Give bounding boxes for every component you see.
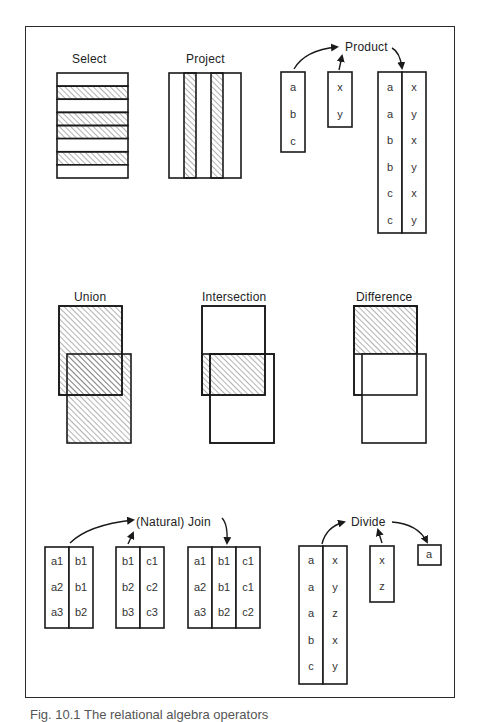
projected-column xyxy=(211,73,223,178)
join-right-cell: c1 xyxy=(142,555,162,567)
join-left-cell: a3 xyxy=(47,606,67,618)
project-diagram xyxy=(169,73,241,178)
selected-row xyxy=(57,152,128,165)
difference-result xyxy=(354,306,417,354)
product-result-cell: y xyxy=(404,161,424,173)
divide-arrow-divisor xyxy=(378,530,382,543)
intersection-overlap xyxy=(202,354,265,395)
join-arrow-left xyxy=(70,520,133,543)
project-label: Project xyxy=(186,52,225,66)
product-result-cell: c xyxy=(380,187,400,199)
join-arrow-right xyxy=(128,533,133,544)
join-right-cell: b2 xyxy=(118,581,138,593)
join-result-cell: b1 xyxy=(214,555,234,567)
product-result-cell: x xyxy=(404,81,424,93)
product-result-cell: x xyxy=(404,134,424,146)
join-left-cell: a1 xyxy=(47,555,67,567)
join-left-cell: b2 xyxy=(71,606,91,618)
row xyxy=(57,99,128,112)
selected-row xyxy=(57,112,128,125)
join-right-cell: b1 xyxy=(118,555,138,567)
dividend-cell: x xyxy=(325,554,345,566)
product-result-cell: c xyxy=(380,214,400,226)
join-result-cell: c2 xyxy=(238,606,258,618)
product-result-col1 xyxy=(378,72,402,233)
join-result-cell: a2 xyxy=(190,581,210,593)
join-right-cell: c2 xyxy=(142,581,162,593)
projected-column xyxy=(184,73,196,178)
dividend-cell: a xyxy=(301,554,321,566)
join-right-cell: b3 xyxy=(118,606,138,618)
dividend-cell: y xyxy=(325,581,345,593)
product-left-cell: b xyxy=(283,108,303,120)
product-result-cell: b xyxy=(380,134,400,146)
product-result-cell: a xyxy=(380,81,400,93)
divide-arrow-result xyxy=(392,522,427,542)
product-result-cell: x xyxy=(404,187,424,199)
product-result-cell: b xyxy=(380,161,400,173)
dividend-cell: z xyxy=(325,607,345,619)
selected-row xyxy=(57,126,128,139)
join-left-cell: b1 xyxy=(71,581,91,593)
product-result-cell: a xyxy=(380,108,400,120)
join-result-cell: a1 xyxy=(190,555,210,567)
intersection-label: Intersection xyxy=(202,290,266,304)
dividend-cell: a xyxy=(301,607,321,619)
divide-result-cell: a xyxy=(419,548,439,560)
divide-label: Divide xyxy=(351,515,386,529)
join-left-cell: b1 xyxy=(71,555,91,567)
divisor-cell: x xyxy=(372,554,392,566)
row xyxy=(57,139,128,152)
dividend-cell: a xyxy=(301,581,321,593)
join-result-cell: b2 xyxy=(214,606,234,618)
product-left-cell: c xyxy=(283,135,303,147)
divide-arrow-dividend xyxy=(322,522,344,544)
product-result-cell: y xyxy=(404,108,424,120)
dividend-cell: x xyxy=(325,634,345,646)
figure-caption: Fig. 10.1 The relational algebra operato… xyxy=(30,707,268,722)
join-result-cell: b1 xyxy=(214,581,234,593)
join-right-cell: c3 xyxy=(142,606,162,618)
product-arrow-right xyxy=(339,56,342,70)
product-right-cell: y xyxy=(330,108,350,120)
product-left-cell: a xyxy=(283,81,303,93)
product-label: Product xyxy=(345,40,388,54)
row xyxy=(57,165,128,178)
dividend-cell: y xyxy=(325,660,345,672)
product-result-col2 xyxy=(402,72,426,233)
set-operations-diagram xyxy=(59,306,426,443)
product-arrow-result xyxy=(392,48,402,68)
union-label: Union xyxy=(74,290,106,304)
difference-label: Difference xyxy=(356,290,412,304)
join-label: (Natural) Join xyxy=(136,515,211,529)
divisor-cell: z xyxy=(372,580,392,592)
select-diagram xyxy=(57,73,128,178)
relation-box xyxy=(169,73,241,178)
select-label: Select xyxy=(72,52,107,66)
product-result-cell: y xyxy=(404,214,424,226)
selected-row xyxy=(57,86,128,99)
product-right-cell: x xyxy=(330,81,350,93)
join-result-cell: c1 xyxy=(238,555,258,567)
join-result-cell: c1 xyxy=(238,581,258,593)
dividend-cell: c xyxy=(301,660,321,672)
join-arrow-result xyxy=(222,518,227,543)
dividend-cell: b xyxy=(301,634,321,646)
join-left-cell: a2 xyxy=(47,581,67,593)
join-result-cell: a3 xyxy=(190,606,210,618)
row xyxy=(57,73,128,86)
product-arrow-left xyxy=(294,47,337,69)
